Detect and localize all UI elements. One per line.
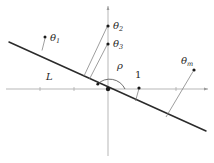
x-axis-arrow [204, 88, 208, 91]
theta1-subscript: 1 [56, 37, 60, 45]
theta3-leader [90, 45, 108, 79]
label-one: 1 [135, 69, 141, 80]
y-axis-arrow [107, 6, 110, 10]
arc-start-point [96, 83, 99, 86]
points-group [44, 24, 196, 91]
origin-point [106, 87, 110, 91]
axes-group [6, 6, 208, 156]
geometry-figure: θ1 θ2 θ3 θm ρ 1 L [0, 0, 214, 163]
theta3-subscript: 3 [119, 43, 123, 51]
one-point [137, 86, 140, 89]
theta1-leader [42, 39, 45, 51]
label-rho: ρ [116, 60, 123, 71]
theta-m-subscript: m [187, 60, 193, 68]
labels-group: θ1 θ2 θ3 θm ρ 1 L [45, 20, 193, 82]
label-theta3: θ3 [113, 38, 123, 51]
theta2-point [106, 24, 109, 27]
label-L: L [45, 71, 53, 82]
theta3-point [106, 42, 109, 45]
label-theta1: θ1 [50, 32, 60, 45]
line-L [9, 42, 206, 131]
label-theta-m: θm [181, 55, 193, 68]
label-theta2: θ2 [113, 20, 123, 33]
theta2-subscript: 2 [118, 25, 123, 33]
theta-m-leader [166, 72, 193, 118]
theta-m-point [192, 68, 195, 71]
diagram-canvas: θ1 θ2 θ3 θm ρ 1 L [0, 0, 214, 163]
theta1-point [44, 36, 47, 39]
